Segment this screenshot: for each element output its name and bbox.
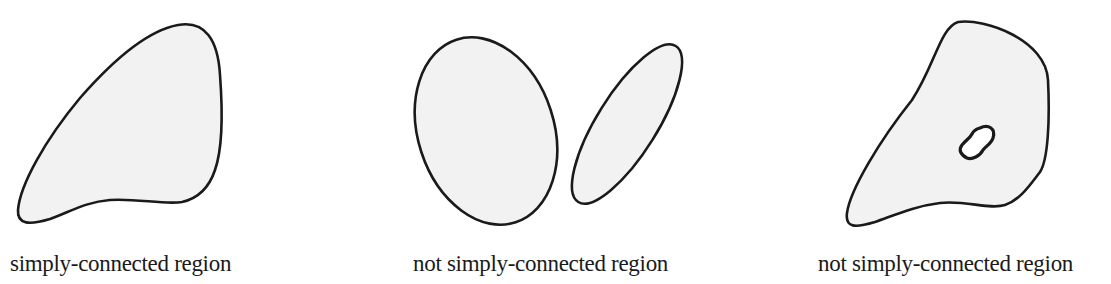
right-ellipse [553, 30, 701, 218]
left-ellipse [392, 19, 581, 244]
simply-connected-blob [18, 24, 222, 223]
panel-1-region [18, 24, 222, 223]
diagram-canvas [0, 0, 1111, 284]
outer-blob-with-hole [847, 22, 1049, 226]
caption-simply-connected: simply-connected region [10, 251, 231, 277]
panel-2-region [392, 19, 702, 244]
caption-not-simply-connected-hole: not simply-connected region [818, 251, 1073, 277]
panel-3-region [847, 22, 1049, 226]
caption-not-simply-connected-disjoint: not simply-connected region [413, 251, 668, 277]
